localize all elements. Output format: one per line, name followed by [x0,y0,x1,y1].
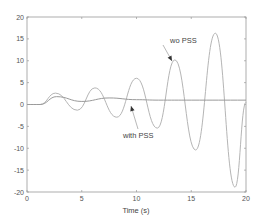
y-tick-label: 15 [16,35,24,42]
y-tick-label: -10 [14,145,24,152]
y-tick-label: -20 [14,189,24,196]
x-tick-label: 0 [25,195,29,202]
annotation-wo-pss: wo PSS [169,36,197,45]
with-pss-arrow-icon [130,106,138,129]
x-tick-label: 20 [242,195,250,202]
x-tick-label: 10 [133,195,141,202]
data-series [27,33,246,187]
y-tick-label: -5 [18,123,24,130]
series-with-pss [27,97,246,105]
y-tick-label: 5 [20,79,24,86]
x-tick-label: 15 [187,195,195,202]
series-wo-pss [27,33,246,187]
y-tick-label: 0 [20,101,24,108]
y-tick-label: 20 [16,14,24,21]
x-tick-label: 5 [80,195,84,202]
x-axis-label: Time (s) [122,206,150,215]
y-tick-label: 10 [16,57,24,64]
annotations: wo PSS with PSS [122,36,197,140]
plot-frame [27,17,246,192]
y-tick-label: -15 [14,167,24,174]
line-chart: 0510152020151050-5-10-15-20 wo PSS with … [0,0,262,223]
plot-axes [27,17,246,192]
annotation-with-pss: with PSS [122,131,153,140]
wo-pss-arrow-icon [163,45,172,61]
